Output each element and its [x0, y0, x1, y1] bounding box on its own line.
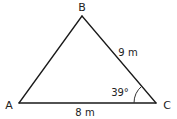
- triangle-diagram: B A C 9 m 8 m 39°: [0, 0, 177, 119]
- side-bc-length-label: 9 m: [118, 47, 137, 58]
- vertex-label-c: C: [163, 99, 171, 112]
- side-ab: [19, 16, 82, 103]
- vertex-label-a: A: [5, 99, 13, 112]
- side-ac-length-label: 8 m: [75, 107, 94, 118]
- angle-c-label: 39°: [111, 87, 129, 98]
- angle-c-arc-icon: [134, 86, 142, 103]
- vertex-label-b: B: [78, 1, 86, 14]
